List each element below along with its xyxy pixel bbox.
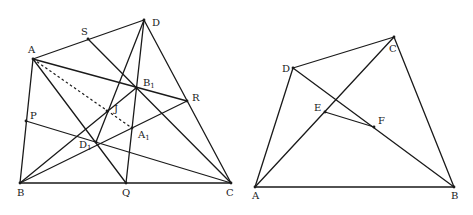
label-p: P: [30, 110, 37, 121]
point-d1: [95, 141, 98, 144]
figure-right-quadrilateral: ABCDEF: [251, 36, 458, 201]
point-b: [453, 186, 456, 189]
point-d: [292, 67, 295, 70]
segment-b-r: [20, 101, 187, 183]
point-c: [393, 36, 396, 39]
label-c: C: [226, 187, 234, 198]
label-c: C: [389, 43, 397, 54]
point-c: [230, 182, 233, 185]
segment-a-q: [33, 59, 126, 183]
label-a1: A1: [137, 129, 150, 142]
label-e: E: [314, 102, 321, 113]
label-a: A: [27, 44, 36, 55]
segment-d-a: [255, 68, 293, 187]
point-j: [106, 110, 109, 113]
diagram-svg: ASDB1RJPA1D1BQC ABCDEF: [0, 0, 473, 215]
point-e: [324, 111, 327, 114]
label-d1: D1: [79, 139, 92, 152]
label-d: D: [282, 63, 290, 74]
figure-left-complete-quadrilateral: ASDB1RJPA1D1BQC: [17, 17, 234, 198]
label-b: B: [451, 190, 458, 201]
label-q: Q: [122, 187, 130, 198]
label-s: S: [81, 26, 88, 37]
label-subscript: 1: [145, 134, 149, 142]
label-b1: B1: [143, 77, 155, 90]
point-a1: [131, 127, 134, 130]
label-a: A: [251, 190, 260, 201]
segment-e-f: [325, 112, 374, 127]
segment-b-b1: [20, 88, 136, 183]
point-a: [254, 186, 257, 189]
label-d: D: [152, 17, 160, 28]
label-r: R: [192, 92, 200, 103]
point-b: [19, 182, 22, 185]
label-subscript: 1: [87, 144, 91, 152]
segment-a-r: [33, 59, 187, 101]
point-s: [87, 38, 90, 41]
dashed-segment-a-a1: [33, 59, 132, 128]
point-q: [125, 182, 128, 185]
label-b: B: [17, 187, 24, 198]
point-b1: [135, 87, 138, 90]
point-p: [25, 120, 28, 123]
point-r: [186, 100, 189, 103]
label-f: F: [378, 115, 385, 126]
point-d: [143, 19, 146, 22]
point-a: [32, 58, 35, 61]
point-f: [373, 126, 376, 129]
label-subscript: 1: [150, 82, 154, 90]
label-j: J: [113, 103, 118, 114]
geometry-diagram: ASDB1RJPA1D1BQC ABCDEF: [0, 0, 473, 215]
